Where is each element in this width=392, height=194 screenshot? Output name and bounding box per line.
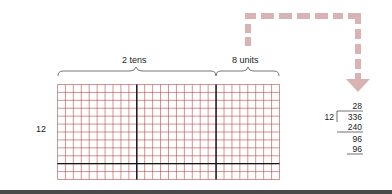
tens-label: 2 tens bbox=[122, 55, 147, 65]
divisor: 12 bbox=[306, 112, 334, 122]
subtract-1: 240 bbox=[334, 122, 362, 132]
bottom-divider bbox=[0, 190, 392, 194]
quotient: 28 bbox=[334, 101, 362, 111]
tens-brace bbox=[58, 67, 216, 76]
remainder-1: 96 bbox=[334, 134, 362, 144]
units-brace bbox=[216, 67, 279, 76]
subtract-2: 96 bbox=[334, 144, 362, 154]
multiplication-grid bbox=[58, 85, 280, 180]
dividend: 336 bbox=[334, 112, 362, 122]
units-label: 8 units bbox=[232, 55, 259, 65]
row-count-label: 12 bbox=[36, 124, 46, 134]
diagram-canvas bbox=[0, 0, 392, 194]
dashed-arrow-icon bbox=[245, 13, 370, 92]
